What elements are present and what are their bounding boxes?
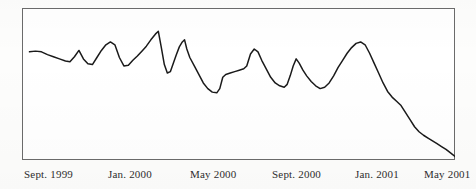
x-axis-label-1: Jan. 2000 xyxy=(108,168,152,180)
x-axis-label-5: May 2001 xyxy=(424,168,471,180)
x-axis-label-2: May 2000 xyxy=(190,168,237,180)
x-axis-label-4: Jan. 2001 xyxy=(355,168,399,180)
x-axis-label-row: Sept. 1999 Jan. 2000 May 2000 Sept. 2000… xyxy=(0,168,476,189)
x-axis-label-3: Sept. 2000 xyxy=(272,168,321,180)
chart-figure: Sept. 1999 Jan. 2000 May 2000 Sept. 2000… xyxy=(0,0,476,189)
x-axis-label-0: Sept. 1999 xyxy=(24,168,73,180)
data-series-line xyxy=(29,31,455,156)
line-chart-plot xyxy=(22,8,455,160)
